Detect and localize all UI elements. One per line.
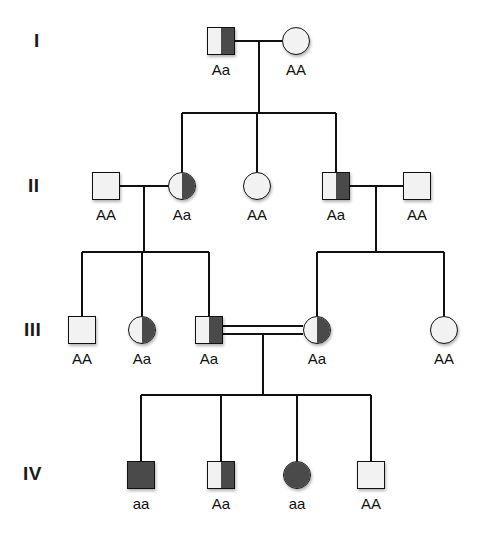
symbol-body-circle bbox=[282, 27, 310, 55]
symbol-body-square bbox=[68, 316, 96, 344]
generation-label-I: I bbox=[34, 31, 40, 50]
symbol-body-square bbox=[92, 172, 120, 200]
generation-label-II: II bbox=[28, 176, 40, 195]
genotype-label: AA bbox=[52, 351, 112, 366]
pedigree-symbol-III-4-female-Aa bbox=[303, 316, 331, 344]
pedigree-symbol-III-1-male-AA bbox=[68, 316, 96, 344]
symbol-body-circle bbox=[168, 172, 196, 200]
genotype-label: AA bbox=[227, 207, 287, 222]
symbol-body-circle bbox=[283, 461, 311, 489]
pedigree-symbol-II-3-female-AA bbox=[243, 172, 271, 200]
genotype-label: Aa bbox=[112, 351, 172, 366]
symbol-body-square bbox=[322, 172, 350, 200]
symbol-body-square bbox=[403, 172, 431, 200]
pedigree-symbol-I-2-female-AA bbox=[282, 27, 310, 55]
pedigree-symbol-II-4-male-Aa bbox=[322, 172, 350, 200]
generation-label-III: III bbox=[24, 320, 41, 339]
symbol-body-square bbox=[195, 316, 223, 344]
genotype-label: Aa bbox=[179, 351, 239, 366]
genotype-label: AA bbox=[341, 496, 401, 511]
half-fill-region bbox=[209, 317, 222, 343]
symbol-body-square bbox=[357, 461, 385, 489]
pedigree-symbol-IV-2-male-Aa bbox=[207, 461, 235, 489]
symbol-body-square bbox=[207, 461, 235, 489]
pedigree-symbol-I-1-male-Aa bbox=[207, 27, 235, 55]
symbol-body-square bbox=[207, 27, 235, 55]
genotype-label: Aa bbox=[152, 207, 212, 222]
symbol-body-circle bbox=[303, 316, 331, 344]
genotype-label: aa bbox=[111, 496, 171, 511]
half-fill-region bbox=[142, 317, 155, 343]
full-fill-region bbox=[284, 462, 310, 488]
genotype-label: AA bbox=[387, 207, 447, 222]
pedigree-symbol-II-5-male-AA bbox=[403, 172, 431, 200]
symbol-body-circle bbox=[430, 316, 458, 344]
genotype-label: aa bbox=[267, 496, 327, 511]
half-fill-region bbox=[221, 462, 234, 488]
generation-label-IV: IV bbox=[23, 464, 42, 483]
pedigree-connector-lines bbox=[0, 0, 491, 541]
genotype-label: AA bbox=[76, 207, 136, 222]
pedigree-symbol-III-5-female-AA bbox=[430, 316, 458, 344]
symbol-body-circle bbox=[243, 172, 271, 200]
genotype-label: AA bbox=[414, 351, 474, 366]
pedigree-symbol-IV-1-male-aa bbox=[127, 461, 155, 489]
pedigree-symbol-III-2-female-Aa bbox=[128, 316, 156, 344]
pedigree-symbol-II-2-female-Aa bbox=[168, 172, 196, 200]
half-fill-region bbox=[182, 173, 195, 199]
genotype-label: AA bbox=[266, 62, 326, 77]
pedigree-symbol-IV-3-female-aa bbox=[283, 461, 311, 489]
full-fill-region bbox=[128, 462, 154, 488]
genotype-label: Aa bbox=[191, 496, 251, 511]
pedigree-symbol-II-1-male-AA bbox=[92, 172, 120, 200]
symbol-body-square bbox=[127, 461, 155, 489]
genotype-label: Aa bbox=[191, 62, 251, 77]
pedigree-symbol-IV-4-male-AA bbox=[357, 461, 385, 489]
half-fill-region bbox=[317, 317, 330, 343]
genotype-label: Aa bbox=[306, 207, 366, 222]
half-fill-region bbox=[221, 28, 234, 54]
pedigree-symbol-III-3-male-Aa bbox=[195, 316, 223, 344]
symbol-body-circle bbox=[128, 316, 156, 344]
genotype-label: Aa bbox=[287, 351, 347, 366]
half-fill-region bbox=[336, 173, 349, 199]
pedigree-chart: IIIIIIIVAaAAAAAaAAAaAAAAAaAaAaAAaaAaaaAA bbox=[0, 0, 491, 541]
